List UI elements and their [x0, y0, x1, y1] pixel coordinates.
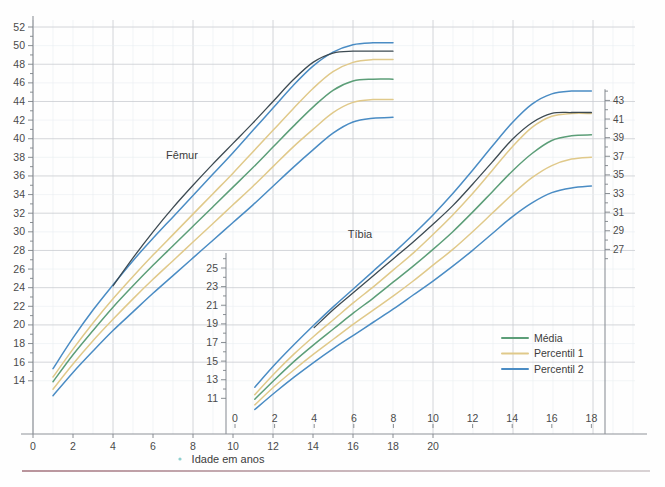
top-axis-tick: 0	[232, 412, 238, 424]
left-axis-tick: 28	[13, 244, 25, 256]
left-axis-tick: 42	[13, 114, 25, 126]
bottom-axis-tick: 4	[110, 440, 116, 452]
left-axis-tick: 44	[13, 95, 25, 107]
bottom-axis-tick: 6	[150, 440, 156, 452]
left-axis-tick: 50	[13, 39, 25, 51]
left-axis-tick: 14	[13, 374, 25, 386]
bottom-axis-tick: 2	[70, 440, 76, 452]
left-axis-tick: 24	[13, 281, 25, 293]
top-axis-tick: 2	[272, 412, 278, 424]
left-axis-tick: 46	[13, 76, 25, 88]
top-axis-tick: 10	[427, 412, 439, 424]
top-axis-tick: 16	[546, 412, 558, 424]
left-axis-tick: 48	[13, 58, 25, 70]
right-axis-tick: 37	[613, 151, 625, 162]
chart-page: 1416182022242628303234363840424446485052…	[0, 0, 665, 487]
left-axis-tick: 26	[13, 263, 25, 275]
left-axis-tick: 18	[13, 337, 25, 349]
stray-mark	[178, 457, 181, 460]
bottom-axis-tick: 18	[387, 440, 399, 452]
legend-label-0: Média	[534, 332, 563, 344]
right-axis-tick: 31	[613, 207, 625, 218]
left-axis-tick: 36	[13, 169, 25, 181]
right-axis-tick: 33	[613, 188, 625, 199]
left-axis-tick: 20	[13, 318, 25, 330]
right-axis-tick: 43	[613, 95, 625, 106]
right-axis-tick: 27	[613, 244, 625, 255]
footer-rule	[22, 470, 650, 472]
left-axis-tick: 38	[13, 151, 25, 163]
left-axis-tick: 30	[13, 225, 25, 237]
legend-label-2: Percentil 2	[534, 363, 584, 375]
right-axis-tick: 41	[613, 114, 625, 125]
top-axis-tick: 8	[390, 412, 396, 424]
growth-chart-figure: 1416182022242628303234363840424446485052…	[0, 0, 665, 487]
series-tibia-m-dia	[255, 135, 592, 399]
right-axis-tick: 35	[613, 169, 625, 180]
series-femur-percentil-2-inferior	[53, 117, 393, 395]
top-axis-tick: 12	[467, 412, 479, 424]
middle-axis-tick: 15	[206, 355, 218, 367]
legend-label-1: Percentil 1	[534, 347, 584, 359]
labels-layer: FêmurTíbiaIdade em anos	[166, 149, 373, 465]
middle-axis-tick: 13	[206, 373, 218, 385]
left-axis-tick: 52	[13, 21, 25, 33]
right-axis-tick: 39	[613, 132, 625, 143]
bottom-axis-tick: 10	[227, 440, 239, 452]
top-axis-tick: 18	[586, 412, 598, 424]
middle-axis-tick: 21	[206, 299, 218, 311]
bottom-axis-tick: 14	[307, 440, 319, 452]
top-axis-tick: 6	[351, 412, 357, 424]
bottom-axis-tick: 20	[427, 440, 439, 452]
series-femur-percentil-2-superior	[53, 43, 393, 369]
bottom-axis-tick: 16	[347, 440, 359, 452]
middle-axis-tick: 17	[206, 336, 218, 348]
left-axis-tick: 16	[13, 356, 25, 368]
series-tibia-percentil-2-inferior	[255, 186, 592, 409]
left-axis-tick: 32	[13, 207, 25, 219]
tibia-panel-label: Tíbia	[348, 228, 373, 240]
middle-axis-tick: 19	[206, 317, 218, 329]
middle-axis-tick: 23	[206, 280, 218, 292]
left-axis-tick: 22	[13, 300, 25, 312]
legend-layer: MédiaPercentil 1Percentil 2	[502, 332, 584, 375]
left-axis-tick: 40	[13, 132, 25, 144]
left-axis-tick: 34	[13, 188, 25, 200]
bottom-axis-tick: 12	[267, 440, 279, 452]
middle-axis-tick: 25	[206, 262, 218, 274]
bottom-axis-tick: 0	[30, 440, 36, 452]
femur-panel-label: Fêmur	[166, 149, 198, 161]
series-femur-percentil-1-inferior	[53, 99, 393, 389]
right-axis-tick: 29	[613, 225, 625, 236]
axes-layer: 1416182022242628303234363840424446485052…	[13, 16, 647, 452]
top-axis-tick: 4	[311, 412, 317, 424]
top-axis-tick: 14	[506, 412, 518, 424]
bottom-axis-tick: 8	[190, 440, 196, 452]
x-axis-title: Idade em anos	[192, 453, 265, 465]
middle-axis-tick: 11	[207, 392, 218, 404]
